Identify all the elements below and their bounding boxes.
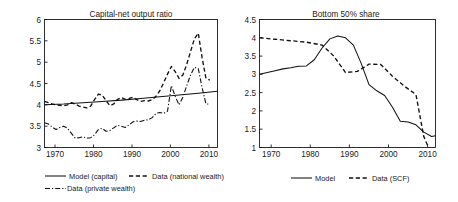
- legend-label-model-capital: Model (capital): [69, 172, 117, 181]
- chart-title-right: Bottom 50% share: [312, 10, 380, 19]
- x-label-left-3: 2000: [161, 150, 180, 159]
- figure-two-panel-line-charts: Capital-net output ratio 3 3.5 4 4.5 5 5…: [0, 0, 458, 202]
- legend-left: Model (capital) Data (national wealth) D…: [45, 172, 224, 194]
- x-axis-labels-left: 1970 1980 1990 2000 2010: [46, 150, 219, 159]
- y-label-right-5: 3.5: [245, 52, 257, 61]
- legend-label-data-private-wealth: Data (private wealth): [67, 184, 135, 193]
- y-label-right-2: 2: [251, 107, 256, 116]
- x-label-right-3: 2000: [379, 150, 398, 159]
- legend-label-data-national-wealth: Data (national wealth): [152, 172, 224, 181]
- y-label-right-0: 1: [251, 144, 256, 153]
- x-label-left-0: 1970: [46, 150, 65, 159]
- y-label-left-4: 5: [36, 58, 41, 67]
- x-label-right-2: 1990: [340, 150, 359, 159]
- panel-bottom-50-share: Bottom 50% share 1 1.5 2 2.5 3 3.5 4: [229, 0, 458, 202]
- plot-lines-right: [260, 36, 436, 146]
- y-label-right-6: 4: [251, 34, 256, 43]
- legend-label-data-scf: Data (SCF): [372, 174, 409, 183]
- plot-lines-left: [45, 33, 218, 138]
- axes-frame-right: [260, 20, 436, 148]
- x-axis-labels-right: 1970 1980 1990 2000 2010: [262, 150, 437, 159]
- y-label-left-3: 4.5: [30, 80, 42, 89]
- y-label-left-6: 6: [36, 16, 41, 25]
- y-label-left-2: 4: [36, 101, 41, 110]
- y-label-right-4: 3: [251, 70, 256, 79]
- panel-capital-net-output-ratio: Capital-net output ratio 3 3.5 4 4.5 5 5…: [0, 0, 229, 202]
- y-label-left-0: 3: [36, 144, 41, 153]
- y-label-left-1: 3.5: [30, 122, 42, 131]
- y-axis-labels-left: 3 3.5 4 4.5 5 5.5 6: [30, 16, 42, 153]
- y-label-right-7: 4.5: [245, 16, 257, 25]
- x-label-right-4: 2010: [418, 150, 437, 159]
- legend-right: Model Data (SCF): [291, 174, 409, 183]
- series-data-scf: [260, 38, 428, 146]
- axes-frame-left: [45, 20, 218, 148]
- y-label-right-1: 1.5: [245, 125, 257, 134]
- chart-title-left: Capital-net output ratio: [90, 10, 173, 19]
- x-label-left-2: 1990: [123, 150, 142, 159]
- x-label-left-1: 1980: [84, 150, 103, 159]
- y-label-right-3: 2.5: [245, 89, 257, 98]
- x-label-right-0: 1970: [262, 150, 281, 159]
- series-data-national-wealth: [45, 33, 210, 108]
- y-axis-labels-right: 1 1.5 2 2.5 3 3.5 4 4.5: [245, 16, 257, 153]
- legend-label-model: Model: [315, 174, 335, 183]
- series-data-private-wealth: [45, 67, 210, 138]
- series-model: [260, 36, 436, 137]
- x-label-right-1: 1980: [301, 150, 320, 159]
- x-label-left-4: 2010: [200, 150, 219, 159]
- y-label-left-5: 5.5: [30, 37, 42, 46]
